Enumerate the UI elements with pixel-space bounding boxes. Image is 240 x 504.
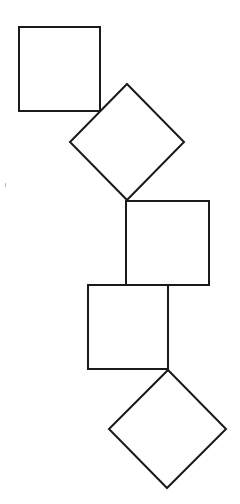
square-3 — [88, 285, 168, 369]
diamond-2 — [109, 370, 226, 488]
diagram-canvas — [0, 0, 240, 504]
stray-mark — [5, 183, 6, 187]
square-1 — [19, 27, 100, 111]
square-2 — [126, 201, 209, 285]
